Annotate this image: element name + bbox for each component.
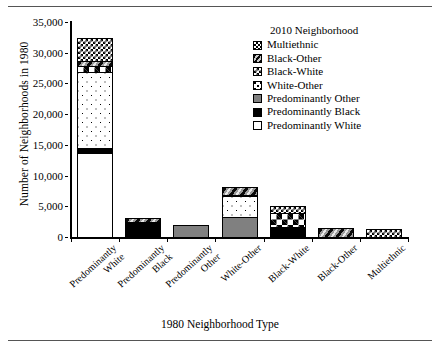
y-tick-mark [65, 176, 68, 177]
legend-rows: MultiethnicBlack-OtherBlack-WhiteWhite-O… [253, 38, 361, 132]
bar-segment-predominantly-other [222, 217, 258, 238]
legend-label: Predominantly Other [267, 92, 360, 105]
y-axis-title: Number of Neighborhoods in 1980 [18, 14, 30, 234]
y-tick-mark [65, 145, 68, 146]
bar-predominantly-other[interactable] [173, 224, 209, 237]
bottom-rule [8, 340, 432, 341]
x-tick-mark [264, 237, 265, 242]
y-tick-label: 5,000 [38, 200, 63, 212]
x-axis-title: 1980 Neighborhood Type [0, 318, 440, 330]
legend-label: Multiethnic [267, 38, 318, 51]
x-tick-label: PredominantlyBlack [115, 242, 174, 298]
top-rule [8, 6, 432, 7]
y-tick-mark [65, 83, 68, 84]
legend-label: Predominantly White [267, 119, 361, 132]
x-tick-mark [167, 237, 168, 242]
x-tick-label: Black-Other [315, 242, 359, 284]
x-tick-mark [71, 237, 72, 242]
figure-stacked-bar-chart: Number of Neighborhoods in 1980 05,00010… [0, 0, 440, 349]
bar-segment-multiethnic [366, 229, 402, 238]
y-tick-label: 0 [58, 231, 64, 243]
legend-label: Black-Other [267, 52, 321, 65]
x-tick-mark [119, 237, 120, 242]
x-tick-label: White-Other [218, 242, 263, 284]
legend-item-predominantly-white[interactable]: Predominantly White [253, 119, 361, 132]
bar-predominantly-white[interactable] [77, 33, 113, 237]
bar-black-other[interactable] [318, 227, 354, 237]
x-tick-label: Multiethnic [365, 242, 407, 282]
bar-segment-white-other [77, 72, 113, 149]
legend-swatch-icon [253, 67, 262, 76]
x-tick-mark [215, 237, 216, 242]
legend-item-predominantly-black[interactable]: Predominantly Black [253, 105, 361, 118]
y-tick-mark [65, 22, 68, 23]
legend-swatch-icon [253, 94, 262, 103]
legend-item-predominantly-other[interactable]: Predominantly Other [253, 92, 361, 105]
bar-black-white[interactable] [270, 204, 306, 237]
bar-predominantly-black[interactable] [125, 216, 161, 237]
legend: 2010 Neighborhood MultiethnicBlack-Other… [253, 24, 361, 132]
legend-label: White-Other [267, 79, 323, 92]
legend-label: Black-White [267, 65, 323, 78]
bar-segment-predominantly-other [173, 225, 209, 238]
x-tick-mark [360, 237, 361, 242]
bar-segment-black-other [318, 228, 354, 238]
y-tick-mark [65, 206, 68, 207]
legend-item-black-other[interactable]: Black-Other [253, 52, 361, 65]
bar-segment-black-white [270, 213, 306, 227]
y-tick-mark [65, 114, 68, 115]
x-tick-label: PredominantlyWhite [67, 242, 126, 298]
bar-segment-predominantly-black [125, 222, 161, 238]
x-tick-mark [408, 237, 409, 242]
legend-label: Predominantly Black [267, 105, 360, 118]
x-tick-label: Black-White [266, 242, 312, 285]
y-tick-mark [65, 53, 68, 54]
y-tick-label: 25,000 [33, 77, 63, 89]
legend-item-multiethnic[interactable]: Multiethnic [253, 38, 361, 51]
y-tick-label: 15,000 [33, 139, 63, 151]
legend-swatch-icon [253, 41, 262, 50]
bar-segment-multiethnic [77, 38, 113, 62]
y-tick-label: 10,000 [33, 170, 63, 182]
y-tick-label: 30,000 [33, 47, 63, 59]
x-tick-label: PredominantlyOther [164, 242, 223, 298]
bar-multiethnic[interactable] [366, 228, 402, 237]
legend-title: 2010 Neighborhood [270, 24, 361, 37]
y-tick-mark [65, 237, 68, 238]
bar-segment-predominantly-black [270, 227, 306, 238]
y-tick-label: 20,000 [33, 108, 63, 120]
bar-segment-white-other [222, 196, 258, 218]
y-tick-label: 35,000 [33, 16, 63, 28]
legend-item-white-other[interactable]: White-Other [253, 79, 361, 92]
legend-swatch-icon [253, 54, 262, 63]
legend-swatch-icon [253, 108, 262, 117]
x-tick-mark [312, 237, 313, 242]
bar-segment-predominantly-white [77, 153, 113, 238]
legend-item-black-white[interactable]: Black-White [253, 65, 361, 78]
legend-swatch-icon [253, 81, 262, 90]
bar-white-other[interactable] [222, 184, 258, 237]
legend-swatch-icon [253, 121, 262, 130]
